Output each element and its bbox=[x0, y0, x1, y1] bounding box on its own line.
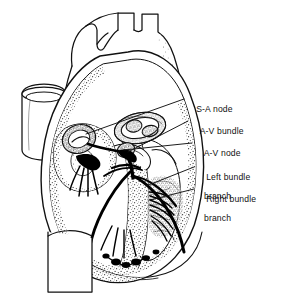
label-left-bundle-branch-line1: Left bundle bbox=[206, 172, 250, 182]
label-right-bundle-branch: Right bundle branch bbox=[196, 185, 256, 243]
label-sa-node-line1: S-A node bbox=[196, 104, 233, 114]
heart-illustration bbox=[0, 0, 294, 307]
label-av-node-line1: A-V node bbox=[204, 148, 241, 158]
label-av-bundle-line1: A-V bundle bbox=[200, 126, 244, 136]
label-right-bundle-branch-line2: branch bbox=[196, 214, 256, 224]
label-right-bundle-branch-line1: Right bundle bbox=[206, 194, 256, 204]
heart-conduction-diagram: S-A node A-V bundle A-V node Left bundle… bbox=[0, 0, 294, 307]
inferior-vena-cava bbox=[48, 231, 92, 292]
